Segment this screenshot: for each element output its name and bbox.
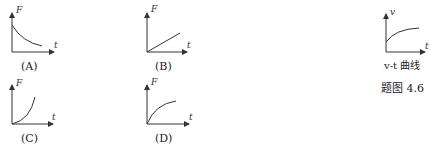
figure-caption: 题图 4.6 bbox=[381, 79, 424, 95]
graph-d: F t bbox=[147, 77, 193, 124]
graph-b-label: (B) bbox=[155, 60, 172, 73]
svg-text:F: F bbox=[15, 78, 23, 88]
svg-text:t: t bbox=[52, 112, 56, 122]
figure-canvas: F t F t F t F t v t bbox=[0, 0, 430, 151]
reference-caption: v-t 曲线 bbox=[384, 57, 420, 72]
graph-b: F t bbox=[147, 4, 191, 52]
svg-text:v: v bbox=[390, 7, 395, 17]
svg-text:t: t bbox=[189, 112, 193, 122]
graph-a: F t bbox=[12, 5, 58, 52]
svg-text:F: F bbox=[15, 5, 23, 15]
svg-text:t: t bbox=[54, 40, 58, 50]
graph-c: F t bbox=[12, 78, 56, 124]
graph-d-label: (D) bbox=[155, 132, 172, 145]
svg-text:F: F bbox=[150, 4, 158, 14]
svg-text:F: F bbox=[150, 77, 158, 87]
reference-graph: v t bbox=[386, 7, 429, 52]
svg-text:t: t bbox=[425, 41, 429, 51]
graph-c-label: (C) bbox=[21, 132, 38, 145]
svg-text:t: t bbox=[187, 40, 191, 50]
graph-a-label: (A) bbox=[21, 60, 38, 73]
